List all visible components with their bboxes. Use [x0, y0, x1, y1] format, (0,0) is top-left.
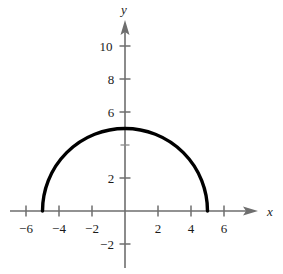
- x-tick-label-6: 6: [221, 221, 228, 236]
- x-tick-label-minus2: −2: [85, 221, 99, 236]
- y-tick-label-8: 8: [108, 72, 115, 87]
- y-tick-label-2: 2: [108, 171, 115, 186]
- semicircle-plot: −6 −4 −2 2 4 6 10 8 6 2 −2 x y: [0, 0, 283, 274]
- y-tick-label-10: 10: [100, 39, 113, 54]
- chart-figure: −6 −4 −2 2 4 6 10 8 6 2 −2 x y: [0, 0, 283, 274]
- x-tick-label-4: 4: [188, 221, 195, 236]
- x-axis-label: x: [266, 204, 273, 219]
- y-tick-label-minus2: −2: [100, 237, 114, 252]
- x-tick-labels: −6 −4 −2 2 4 6: [19, 221, 228, 236]
- y-tick-labels: 10 8 6 2 −2: [100, 39, 115, 252]
- y-tick-label-6: 6: [108, 105, 115, 120]
- x-axis: [10, 207, 258, 216]
- x-tick-label-2: 2: [155, 221, 162, 236]
- y-axis: [121, 20, 130, 268]
- x-tick-label-minus4: −4: [52, 221, 66, 236]
- y-axis-label: y: [119, 2, 127, 17]
- x-tick-label-minus6: −6: [19, 221, 33, 236]
